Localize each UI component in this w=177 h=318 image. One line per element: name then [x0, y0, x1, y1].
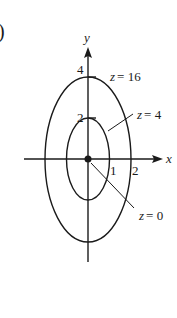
y-tick-label-2: 2 [77, 110, 84, 125]
level-point-z0 [85, 156, 92, 163]
y-axis-label: y [82, 30, 90, 45]
level-label-z16: z= 16 [109, 69, 141, 84]
level-label-z0: z= 0 [138, 208, 163, 223]
x-tick-label-1: 1 [110, 163, 117, 178]
x-axis-label: x [165, 151, 172, 166]
y-tick-label-4: 4 [77, 62, 84, 77]
level-curves-diagram: ) x y 4 2 1 2 z= 16 z= 4 z= 0 [0, 0, 177, 318]
level-label-z4: z= 4 [136, 107, 162, 122]
leader-line-z4 [108, 114, 133, 131]
x-tick-label-2: 2 [132, 163, 139, 178]
panel-marker: ) [0, 20, 5, 43]
